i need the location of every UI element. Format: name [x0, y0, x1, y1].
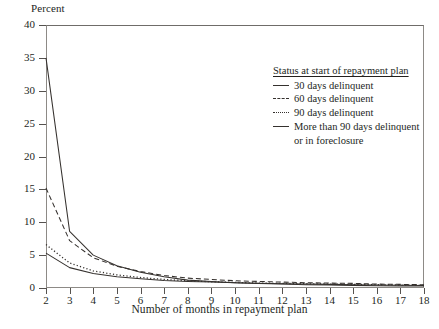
- series-line: [46, 253, 424, 285]
- y-tick: [39, 91, 46, 92]
- legend-item-label-continued: or in foreclosure: [294, 134, 433, 147]
- series-line: [46, 188, 424, 285]
- legend-title: Status at start of repayment plan: [273, 64, 433, 77]
- chart-figure: Percent 0510152025303540 234567891011121…: [0, 0, 439, 329]
- y-tick: [39, 157, 46, 158]
- y-tick-label: 35: [0, 51, 35, 63]
- y-tick-label: 5: [0, 248, 35, 260]
- legend-line-swatch-solid: [273, 120, 289, 133]
- x-axis-title: Number of months in repayment plan: [0, 303, 439, 315]
- series-line: [46, 245, 424, 286]
- legend-item-label: 60 days delinquent: [294, 92, 373, 105]
- y-tick: [39, 124, 46, 125]
- y-tick-label: 0: [0, 281, 35, 293]
- legend-item-label: 30 days delinquent: [294, 79, 373, 92]
- legend-line-swatch-dash: [273, 92, 289, 105]
- legend-line-swatch-solid: [273, 79, 289, 92]
- chart-legend: Status at start of repayment plan 30 day…: [273, 64, 433, 147]
- legend-item: More than 90 days delinquent: [273, 120, 433, 133]
- legend-item-label: More than 90 days delinquent: [294, 120, 419, 133]
- legend-item-label: 90 days delinquent: [294, 106, 373, 119]
- y-axis-title: Percent: [31, 2, 65, 14]
- legend-item: 30 days delinquent: [273, 79, 433, 92]
- y-tick-label: 40: [0, 18, 35, 30]
- y-tick-label: 10: [0, 215, 35, 227]
- legend-item: 60 days delinquent: [273, 92, 433, 105]
- legend-items: 30 days delinquent60 days delinquent90 d…: [273, 79, 433, 147]
- y-tick: [39, 58, 46, 59]
- y-tick-label: 20: [0, 150, 35, 162]
- y-tick-label: 25: [0, 117, 35, 129]
- y-tick-label: 15: [0, 182, 35, 194]
- y-tick: [39, 189, 46, 190]
- legend-line-swatch-dot: [273, 106, 289, 119]
- y-tick: [39, 25, 46, 26]
- y-tick: [39, 288, 46, 289]
- y-tick-label: 30: [0, 84, 35, 96]
- y-tick: [39, 255, 46, 256]
- y-tick: [39, 222, 46, 223]
- legend-item: 90 days delinquent: [273, 106, 433, 119]
